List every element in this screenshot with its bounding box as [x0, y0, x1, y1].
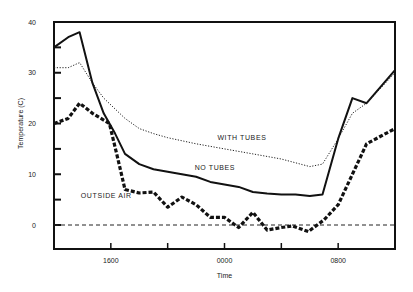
annotation-outside-air: OUTSIDE AIR	[81, 192, 132, 199]
x-tick-label: 0000	[217, 257, 233, 264]
series-no-tubes	[54, 32, 395, 196]
x-tick-label: 0800	[330, 257, 346, 264]
annotation-with-tubes: WITH TUBES	[217, 134, 266, 141]
y-tick-label: 40	[28, 19, 36, 26]
annotation-no-tubes: NO TUBES	[195, 164, 235, 171]
axes: 010203040160000000800	[28, 19, 395, 265]
x-tick-label: 1600	[103, 257, 119, 264]
y-tick-label: 10	[28, 171, 36, 178]
series-lines	[54, 32, 395, 231]
y-tick-label: 0	[32, 222, 36, 229]
x-axis-title: Time	[217, 272, 232, 279]
y-tick-label: 30	[28, 69, 36, 76]
temperature-chart: 010203040160000000800 TimeTemperature (C…	[0, 0, 413, 292]
y-tick-label: 20	[28, 120, 36, 127]
y-axis-title: Temperature (C)	[17, 98, 25, 149]
